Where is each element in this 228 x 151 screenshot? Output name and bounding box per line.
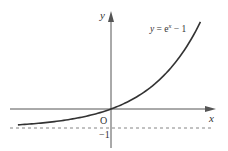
asymptote-tick-label: −1 [99, 129, 110, 140]
origin-label: O [100, 115, 107, 126]
y-axis-arrow-icon [108, 11, 114, 22]
function-label: y = ex − 1 [149, 22, 187, 34]
function-label-eq: = e [154, 24, 168, 34]
function-graph: y x O −1 y = ex − 1 [0, 0, 228, 151]
function-label-rhs: − 1 [171, 24, 186, 34]
x-axis-label: x [208, 112, 214, 124]
y-axis-label: y [99, 9, 105, 21]
